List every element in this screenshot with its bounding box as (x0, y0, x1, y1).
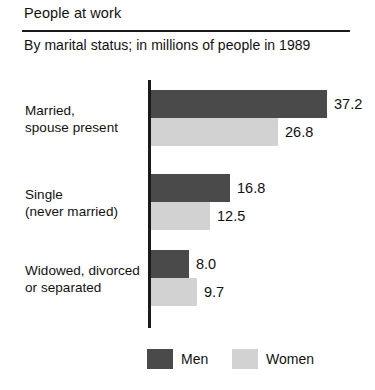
bar-value-women: 12.5 (217, 202, 245, 230)
legend-item-women: Women (232, 348, 314, 370)
category-label-line: Widowed, divorced (25, 262, 145, 279)
category-label-single: Single (never married) (25, 186, 145, 220)
bar-value-women: 9.7 (204, 278, 224, 306)
bar-value-men: 16.8 (237, 174, 265, 202)
legend-label-women: Women (266, 351, 314, 367)
plot-area: Married, spouse present 37.2 26.8 Single… (0, 0, 375, 390)
legend-label-men: Men (181, 351, 208, 367)
bar-women (151, 202, 210, 230)
legend-item-men: Men (147, 348, 208, 370)
bar-men (151, 174, 230, 202)
bar-men (151, 250, 189, 278)
bar-group-single: Single (never married) 16.8 12.5 (0, 174, 375, 230)
category-label-line: Married, (25, 102, 145, 119)
bar-value-men: 8.0 (196, 250, 216, 278)
category-label-widowed: Widowed, divorced or separated (25, 262, 145, 296)
bar-value-men: 37.2 (334, 90, 362, 118)
legend-swatch-women (232, 349, 258, 369)
bar-group-married: Married, spouse present 37.2 26.8 (0, 90, 375, 146)
bar-value-women: 26.8 (285, 118, 313, 146)
category-label-line: Single (25, 186, 145, 203)
bar-men (151, 90, 327, 118)
category-label-married: Married, spouse present (25, 102, 145, 136)
bar-women (151, 278, 197, 306)
legend-swatch-men (147, 349, 173, 369)
chart-figure: People at work By marital status; in mil… (0, 0, 375, 390)
bar-women (151, 118, 278, 146)
category-label-line: (never married) (25, 203, 145, 220)
bar-group-widowed: Widowed, divorced or separated 8.0 9.7 (0, 250, 375, 306)
category-label-line: spouse present (25, 119, 145, 136)
category-label-line: or separated (25, 279, 145, 296)
